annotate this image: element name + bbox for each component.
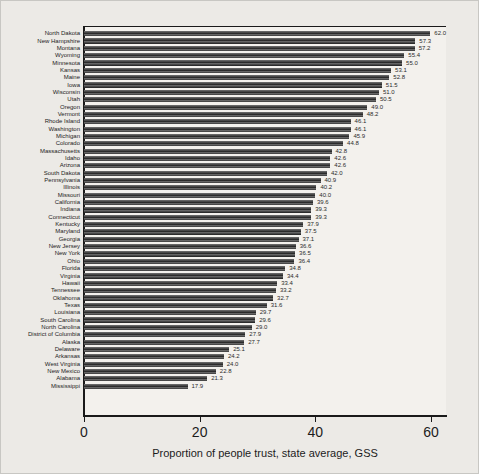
bar (84, 112, 363, 117)
bar (84, 53, 404, 58)
bar-row: Missouri40.0 (1, 192, 446, 199)
bar (84, 163, 330, 168)
bar-track: 36.4 (84, 258, 446, 265)
bar-track: 21.3 (84, 375, 446, 382)
value-label: 36.6 (300, 243, 312, 250)
bar (84, 369, 216, 374)
value-label: 36.5 (299, 250, 311, 257)
bar-track: 57.3 (84, 37, 446, 44)
bar-track: 40.0 (84, 192, 446, 199)
value-label: 37.9 (307, 221, 319, 228)
bar-row: North Dakota62.0 (1, 30, 446, 37)
bar-row: Virginia34.4 (1, 272, 446, 279)
bar-row: Vermont48.2 (1, 111, 446, 118)
value-label: 27.7 (248, 339, 260, 346)
bar-row: Massachusetts42.8 (1, 148, 446, 155)
bar (84, 193, 315, 198)
value-label: 42.0 (331, 170, 343, 177)
x-axis-line (83, 415, 447, 417)
bar-row: Washington46.1 (1, 125, 446, 132)
bar-track: 55.4 (84, 52, 446, 59)
bar-track: 45.9 (84, 133, 446, 140)
bar (84, 156, 330, 161)
value-label: 52.8 (393, 74, 405, 81)
bar-row: Wisconsin51.0 (1, 89, 446, 96)
bar-track: 49.0 (84, 103, 446, 110)
bar-track: 29.7 (84, 309, 446, 316)
bar (84, 178, 321, 183)
state-label: Oklahoma (1, 295, 84, 302)
bar-track: 52.8 (84, 74, 446, 81)
bar (84, 97, 376, 102)
bar-row: Idaho42.6 (1, 155, 446, 162)
bar-track: 40.2 (84, 184, 446, 191)
bar (84, 281, 277, 286)
bar-row: Iowa51.5 (1, 81, 446, 88)
state-label: Arkansas (1, 353, 84, 360)
state-label: Alaska (1, 339, 84, 346)
state-label: Louisiana (1, 309, 84, 316)
bar-row: Delaware25.1 (1, 346, 446, 353)
bar-row: Connecticut39.3 (1, 214, 446, 221)
x-tick-mark (84, 416, 85, 422)
bar-row: Michigan45.9 (1, 133, 446, 140)
bar-track: 33.2 (84, 287, 446, 294)
state-label: Michigan (1, 133, 84, 140)
state-label: Alabama (1, 375, 84, 382)
bar-track: 44.8 (84, 140, 446, 147)
state-label: Idaho (1, 155, 84, 162)
state-label: Washington (1, 126, 84, 133)
value-label: 57.2 (419, 45, 431, 52)
bar (84, 310, 256, 315)
state-label: Virginia (1, 273, 84, 280)
bar (84, 237, 299, 242)
bar-row: Rhode Island46.1 (1, 118, 446, 125)
bar (84, 303, 267, 308)
bar-track: 50.5 (84, 96, 446, 103)
value-label: 36.4 (298, 258, 310, 265)
value-label: 37.5 (305, 228, 317, 235)
state-label: Rhode Island (1, 118, 84, 125)
state-label: District of Columbia (1, 331, 84, 338)
bar-track: 24.2 (84, 353, 446, 360)
bar-row: Montana57.2 (1, 45, 446, 52)
state-label: Florida (1, 265, 84, 272)
bar-track: 37.1 (84, 236, 446, 243)
value-label: 40.9 (325, 177, 337, 184)
value-label: 34.8 (289, 265, 301, 272)
bar-row: Kentucky37.9 (1, 221, 446, 228)
value-label: 51.5 (386, 82, 398, 89)
value-label: 42.8 (336, 148, 348, 155)
bar-track: 51.5 (84, 81, 446, 88)
value-label: 31.6 (271, 302, 283, 309)
bar-row: Georgia37.1 (1, 236, 446, 243)
bar (84, 295, 273, 300)
state-label: Mississippi (1, 383, 84, 390)
bar-track: 32.7 (84, 294, 446, 301)
state-label: Maryland (1, 228, 84, 235)
plot-top-border (84, 26, 446, 27)
bar-track: 42.8 (84, 148, 446, 155)
bar (84, 119, 351, 124)
bar-row: Indiana39.3 (1, 206, 446, 213)
bar-track: 29.0 (84, 324, 446, 331)
state-label: Wisconsin (1, 89, 84, 96)
value-label: 37.1 (303, 236, 315, 243)
bar (84, 325, 252, 330)
value-label: 40.2 (320, 184, 332, 191)
bar (84, 46, 415, 51)
value-label: 33.2 (280, 287, 292, 294)
bar (84, 200, 313, 205)
state-label: New York (1, 250, 84, 257)
x-tick-mark (200, 416, 201, 422)
bar-row: Texas31.6 (1, 302, 446, 309)
value-label: 24.0 (227, 361, 239, 368)
bar-track: 29.6 (84, 316, 446, 323)
bar (84, 82, 382, 87)
bar-track: 40.9 (84, 177, 446, 184)
value-label: 27.9 (249, 331, 261, 338)
state-label: Massachusetts (1, 148, 84, 155)
value-label: 39.3 (315, 214, 327, 221)
value-label: 22.8 (220, 368, 232, 375)
bar-row: Maine52.8 (1, 74, 446, 81)
